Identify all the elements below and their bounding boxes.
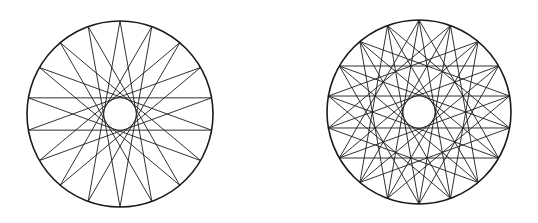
outer-circle: [327, 20, 511, 204]
diagram-canvas: [0, 0, 538, 223]
chord-line: [28, 98, 200, 161]
chord-line: [328, 96, 450, 198]
outer-circle: [27, 21, 213, 207]
chord-line: [388, 96, 510, 198]
chord-line: [328, 26, 450, 128]
chord-line: [60, 68, 200, 186]
chord-line: [39, 98, 211, 161]
chord-line: [39, 68, 211, 131]
star-polygon-18-6-and-18-8: [327, 20, 511, 204]
chord-line: [39, 68, 179, 186]
chord-line: [60, 43, 200, 161]
chord-line: [388, 26, 510, 128]
chord-line: [28, 68, 200, 131]
star-polygon-18-8: [27, 21, 213, 207]
star-polygon-diagram: [0, 0, 538, 223]
chord-line: [39, 43, 179, 161]
